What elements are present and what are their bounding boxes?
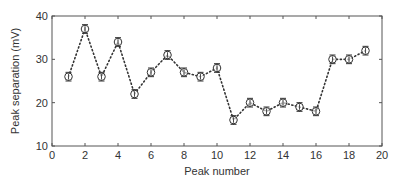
data-point	[246, 98, 254, 107]
x-tick-label: 4	[115, 149, 121, 161]
peak-separation-chart: 02468101214161820 10203040 Peak number P…	[0, 0, 406, 184]
y-tick-label: 40	[36, 10, 48, 22]
x-tick-label: 16	[310, 149, 322, 161]
data-point	[345, 55, 353, 64]
x-tick-label: 0	[49, 149, 55, 161]
data-point	[230, 116, 238, 125]
data-point	[213, 64, 221, 73]
data-point	[263, 107, 271, 116]
data-series-markers	[65, 25, 370, 125]
x-tick-label: 14	[277, 149, 289, 161]
x-tick-label: 8	[181, 149, 187, 161]
x-axis-label: Peak number	[184, 165, 250, 177]
data-point	[362, 46, 370, 55]
data-point	[114, 38, 122, 47]
data-point	[180, 68, 188, 77]
data-point	[81, 25, 89, 34]
y-tick-label: 30	[36, 53, 48, 65]
data-point	[329, 55, 337, 64]
x-tick-label: 2	[82, 149, 88, 161]
data-point	[147, 68, 155, 77]
x-tick-label: 20	[376, 149, 388, 161]
data-point	[279, 98, 287, 107]
data-point	[131, 90, 139, 99]
data-point	[98, 72, 106, 81]
data-point	[65, 72, 73, 81]
series-dotted-line	[69, 29, 366, 120]
data-point	[296, 103, 304, 112]
x-tick-label: 10	[211, 149, 223, 161]
data-point	[312, 107, 320, 116]
data-point	[197, 72, 205, 81]
x-tick-label: 18	[343, 149, 355, 161]
y-axis-label: Peak separation (mV)	[9, 28, 21, 134]
data-series-line	[69, 29, 366, 120]
x-axis-ticks: 02468101214161820	[49, 16, 388, 161]
y-tick-label: 20	[36, 97, 48, 109]
y-tick-label: 10	[36, 140, 48, 152]
x-tick-label: 6	[148, 149, 154, 161]
x-tick-label: 12	[244, 149, 256, 161]
data-point	[164, 51, 172, 60]
